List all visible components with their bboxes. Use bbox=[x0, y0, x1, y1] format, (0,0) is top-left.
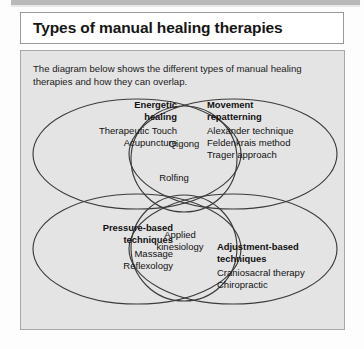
venn-heading-movement-repatterning: Movementrepatterning bbox=[207, 99, 337, 122]
intro-paragraph: The diagram below shows the different ty… bbox=[33, 62, 329, 88]
venn-item: Reflexology bbox=[123, 260, 173, 271]
title-box: Types of manual healing therapies bbox=[20, 12, 344, 44]
venn-heading-line1: Movement bbox=[207, 99, 253, 110]
venn-item: Alexander technique bbox=[207, 125, 294, 136]
page-title: Types of manual healing therapies bbox=[21, 19, 283, 37]
venn-heading-line2: healing bbox=[144, 111, 177, 122]
venn-heading-line1: Adjustment-based bbox=[217, 241, 299, 252]
venn-overlap-label-applied-kinesiology: Applied kinesiology bbox=[145, 229, 215, 254]
venn-diagram: Energetichealing Therapeutic Touch Acupu… bbox=[21, 91, 344, 329]
venn-overlap-label-qigong: Qigong bbox=[153, 138, 215, 150]
venn-label-adjustment-based-techniques: Adjustment-basedtechniques Craniosacral … bbox=[217, 241, 341, 291]
page-root: Types of manual healing therapies The di… bbox=[0, 0, 364, 349]
venn-heading-adjustment-based: Adjustment-basedtechniques bbox=[217, 241, 341, 264]
venn-overlap-label-rolfing: Rolfing bbox=[143, 172, 205, 184]
venn-heading-line2: techniques bbox=[217, 253, 267, 264]
venn-item: Chiropractic bbox=[217, 279, 268, 290]
top-page-band-shadow bbox=[11, 5, 360, 7]
content-panel: The diagram below shows the different ty… bbox=[20, 50, 345, 330]
venn-heading-line1: Energetic bbox=[134, 99, 177, 110]
venn-heading-line2: repatterning bbox=[207, 111, 262, 122]
venn-item: Craniosacral therapy bbox=[217, 267, 305, 278]
venn-heading-energetic-healing: Energetichealing bbox=[57, 99, 177, 122]
venn-item: Trager approach bbox=[207, 149, 277, 160]
venn-label-movement-repatterning: Movementrepatterning Alexander technique… bbox=[207, 99, 337, 162]
venn-item: Feldenkrais method bbox=[207, 137, 290, 148]
venn-item: Therapeutic Touch bbox=[99, 125, 177, 136]
